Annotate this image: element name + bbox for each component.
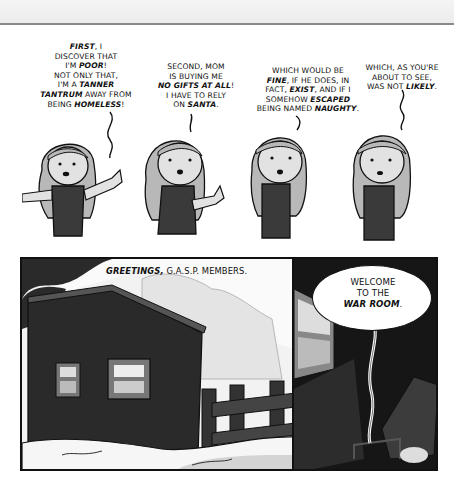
- speech-text-1: FIRST, IDISCOVER THATI'M POOR!NOT ONLY T…: [36, 42, 136, 109]
- girl-figure-3: [250, 130, 350, 240]
- balloon-text: WELCOMETO THEWAR ROOM.: [338, 277, 408, 310]
- girl-figure-1: [22, 140, 132, 240]
- girl-figure-2: [140, 130, 250, 240]
- page-header-band: [0, 0, 454, 25]
- balloon-tail: [360, 315, 390, 445]
- caption-greetings-rest: G.A.S.P. MEMBERS.: [164, 266, 247, 276]
- panel-shed-exterior: GREETINGS, G.A.S.P. MEMBERS.: [20, 257, 294, 471]
- caption-greetings: GREETINGS, G.A.S.P. MEMBERS.: [106, 267, 294, 277]
- caption-greetings-bold: GREETINGS,: [106, 266, 164, 276]
- speech-text-2: SECOND, MOMIS BUYING MENO GIFTS AT ALL!I…: [144, 62, 248, 110]
- speech-text-3: WHICH WOULD BEFINE, IF HE DOES, INFACT, …: [250, 66, 366, 114]
- shed-illustration: [22, 259, 294, 471]
- girl-figure-4: [350, 122, 450, 242]
- panel-war-room-interior: WELCOMETO THEWAR ROOM.: [292, 257, 438, 471]
